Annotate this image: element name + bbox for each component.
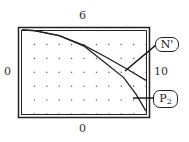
axis-label-right: 10	[154, 66, 168, 77]
callout-n-prime: N'	[155, 37, 179, 52]
axis-label-bottom: 0	[79, 123, 86, 134]
callout-p2: P2	[153, 90, 178, 108]
callout-p2-text: P	[159, 92, 166, 105]
dot-grid	[34, 30, 147, 115]
axis-label-top: 6	[79, 10, 86, 21]
callout-n-prime-text: N'	[161, 38, 174, 51]
curve-p2	[22, 30, 146, 111]
callout-p2-subscript: 2	[167, 97, 172, 106]
leader-line-n-prime	[125, 45, 156, 71]
axis-label-left: 0	[4, 66, 11, 77]
